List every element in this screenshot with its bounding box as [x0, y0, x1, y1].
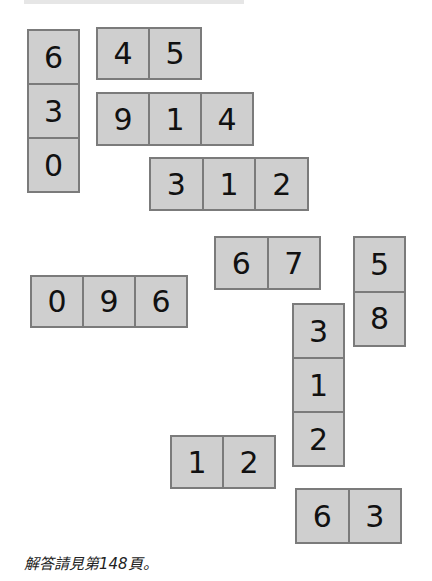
digit-cell: 5 — [355, 238, 404, 291]
digit-cell: 3 — [151, 159, 202, 209]
digit-cell: 6 — [134, 277, 186, 326]
number-piece-914[interactable]: 9 1 4 — [96, 92, 254, 146]
digit-cell: 8 — [355, 291, 404, 346]
digit-cell: 3 — [294, 305, 343, 357]
answer-page-note: 解答請見第148頁。 — [24, 552, 158, 573]
digit-cell: 1 — [172, 437, 222, 487]
number-piece-630[interactable]: 6 3 0 — [27, 29, 80, 193]
digit-cell: 2 — [222, 437, 274, 487]
digit-cell: 1 — [148, 94, 200, 144]
number-piece-63[interactable]: 6 3 — [295, 488, 402, 544]
digit-cell: 6 — [297, 490, 348, 542]
digit-cell: 3 — [348, 490, 401, 542]
digit-cell: 5 — [148, 29, 200, 78]
digit-cell: 0 — [29, 137, 78, 191]
number-piece-67[interactable]: 6 7 — [214, 236, 321, 290]
digit-cell: 2 — [294, 411, 343, 465]
digit-cell: 4 — [200, 94, 252, 144]
digit-cell: 3 — [29, 83, 78, 137]
number-piece-096[interactable]: 0 9 6 — [30, 275, 188, 328]
digit-cell: 6 — [29, 31, 78, 83]
digit-cell: 4 — [98, 29, 148, 78]
number-piece-312-vertical[interactable]: 3 1 2 — [292, 303, 345, 467]
digit-cell: 2 — [254, 159, 307, 209]
digit-cell: 9 — [98, 94, 148, 144]
digit-cell: 1 — [294, 357, 343, 411]
number-piece-312-horizontal[interactable]: 3 1 2 — [149, 157, 309, 211]
digit-cell: 0 — [32, 277, 82, 326]
digit-cell: 9 — [82, 277, 134, 326]
digit-cell: 7 — [267, 238, 320, 288]
number-piece-12[interactable]: 1 2 — [170, 435, 276, 489]
number-piece-58[interactable]: 5 8 — [353, 236, 406, 347]
cropped-header-text — [24, 0, 244, 4]
number-piece-45[interactable]: 4 5 — [96, 27, 202, 80]
digit-cell: 6 — [216, 238, 267, 288]
digit-cell: 1 — [202, 159, 255, 209]
